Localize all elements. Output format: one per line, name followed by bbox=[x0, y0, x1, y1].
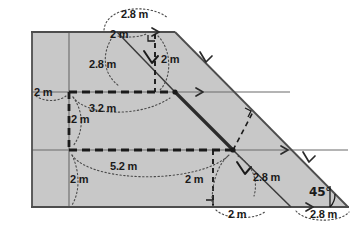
diagram-canvas: 2.8 m 2 m 2.8 m 2 m 2 m 3.2 m 2 m 5.2 m … bbox=[0, 0, 361, 231]
geometry-figure bbox=[0, 0, 361, 231]
label-bottom-right-2-8m: 2.8 m bbox=[310, 209, 337, 220]
label-lower-horizontal-5-2m: 5.2 m bbox=[110, 161, 137, 172]
label-bottom-horizontal-2m: 2 m bbox=[228, 209, 246, 220]
label-lower-left-vertical-2m: 2 m bbox=[70, 174, 88, 185]
label-left-horizontal-2m: 2 m bbox=[34, 87, 52, 98]
label-upper-diagonal-2-8m: 2.8 m bbox=[89, 59, 116, 70]
label-left-vertical-2m: 2 m bbox=[71, 114, 89, 125]
label-lower-centre-vertical-2m: 2 m bbox=[185, 174, 203, 185]
label-mid-horizontal-3-2m: 3.2 m bbox=[89, 103, 116, 114]
label-upper-vertical-2m: 2 m bbox=[161, 54, 179, 65]
arrow-hypotenuse-lower bbox=[303, 152, 315, 162]
node-lower-centre bbox=[230, 147, 235, 152]
label-angle-45: 45° bbox=[309, 186, 331, 198]
label-top-arc-2-8m: 2.8 m bbox=[121, 9, 148, 20]
label-top-horizontal-2m: 2 m bbox=[110, 29, 128, 40]
node-upper-centre bbox=[172, 89, 177, 94]
label-lower-diagonal-2-8m: 2.8 m bbox=[253, 172, 280, 183]
